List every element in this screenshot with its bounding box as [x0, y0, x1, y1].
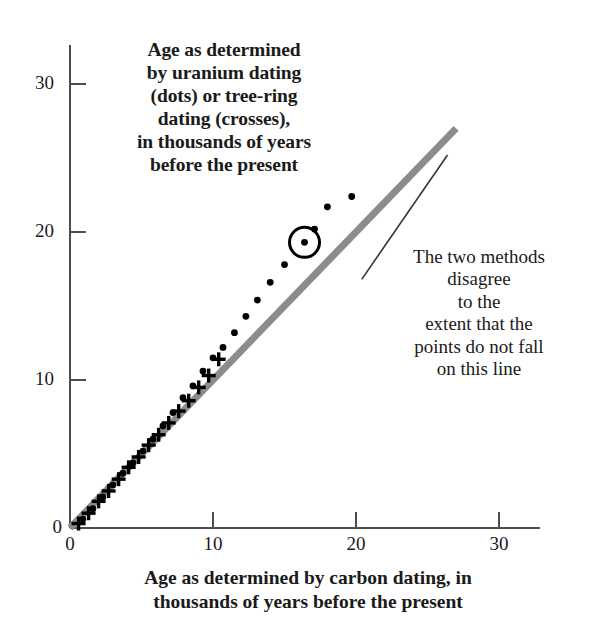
reference-line-note-line-1: The two methods: [378, 246, 580, 268]
y-axis-note-line-6: before the present: [108, 153, 340, 176]
dot-marker: [220, 344, 227, 351]
x-axis-label-line-1: Age as determined by carbon dating, in: [58, 566, 558, 590]
dot-marker: [99, 494, 106, 501]
dot-marker: [242, 313, 249, 320]
y-axis-note-line-3: (dots) or tree-ring: [108, 84, 340, 107]
y-tick-label-20: 20: [14, 220, 54, 242]
reference-line-note: The two methodsdisagreeto theextent that…: [378, 246, 580, 380]
dot-marker: [150, 436, 157, 443]
scatter-chart: Age as determinedby uranium dating(dots)…: [0, 0, 596, 635]
x-axis-ticks: [213, 512, 499, 528]
reference-line-note-line-4: extent that the: [378, 313, 580, 335]
y-tick-label-10: 10: [14, 368, 54, 390]
y-axis-note-line-5: in thousands of years: [108, 130, 340, 153]
y-axis-note: Age as determinedby uranium dating(dots)…: [108, 38, 340, 176]
x-tick-label-20: 20: [336, 533, 376, 555]
reference-line-note-line-6: on this line: [378, 358, 580, 380]
dot-marker: [324, 203, 331, 210]
x-axis-label-line-2: thousands of years before the present: [58, 590, 558, 614]
dot-marker: [140, 448, 147, 455]
dot-marker: [231, 329, 238, 336]
y-axis-note-line-4: dating (crosses),: [108, 107, 340, 130]
x-tick-label-0: 0: [50, 533, 90, 555]
reference-line-note-line-3: to the: [378, 291, 580, 313]
dot-marker: [110, 482, 117, 489]
dot-marker: [267, 279, 274, 286]
dot-marker: [79, 516, 86, 523]
dot-marker: [200, 368, 207, 375]
dot-marker: [281, 261, 288, 268]
x-axis-label: Age as determined by carbon dating, inth…: [58, 566, 558, 614]
dot-marker: [89, 505, 96, 512]
y-tick-label-30: 30: [14, 72, 54, 94]
dot-marker: [180, 394, 187, 401]
dot-marker: [190, 383, 197, 390]
dot-marker: [254, 297, 261, 304]
dot-marker: [170, 409, 177, 416]
y-axis-note-line-1: Age as determined: [108, 38, 340, 61]
reference-line-note-line-5: points do not fall: [378, 336, 580, 358]
dot-marker: [130, 459, 137, 466]
y-axis-ticks: [70, 84, 86, 380]
y-axis-note-line-2: by uranium dating: [108, 61, 340, 84]
reference-line-note-line-2: disagree: [378, 268, 580, 290]
dot-marker: [120, 470, 127, 477]
x-tick-label-10: 10: [193, 533, 233, 555]
dot-marker: [160, 422, 167, 429]
x-tick-label-30: 30: [479, 533, 519, 555]
dot-marker: [301, 239, 308, 246]
dot-marker: [348, 193, 355, 200]
dot-marker: [210, 354, 217, 361]
